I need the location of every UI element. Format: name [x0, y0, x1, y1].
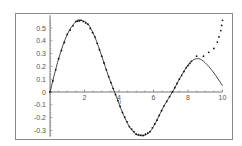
y-tick-label: -0.3	[34, 127, 46, 134]
y-tick-label: 0	[42, 89, 46, 96]
x-tick-label: 10	[219, 94, 227, 101]
x-tick-label: 8	[186, 94, 190, 101]
x-tick-label: 6	[152, 94, 156, 101]
y-axis: -0.3-0.2-0.100.10.20.30.40.5	[34, 15, 53, 137]
y-tick-label: 0.4	[36, 37, 46, 44]
line-chart: 246810 -0.3-0.2-0.100.10.20.30.40.5 t	[0, 0, 242, 146]
y-tick-label: 0.3	[36, 50, 46, 57]
x-tick-label: 2	[83, 94, 87, 101]
y-tick-label: -0.2	[34, 114, 46, 121]
series-dotted	[49, 19, 223, 136]
y-tick-label: 0.1	[36, 76, 46, 83]
x-axis: 246810	[50, 90, 226, 102]
y-tick-label: -0.1	[34, 101, 46, 108]
y-tick-label: 0.2	[36, 63, 46, 70]
series-solid	[50, 20, 223, 136]
chart-frame	[16, 14, 233, 140]
y-tick-label: 0.5	[36, 25, 46, 32]
